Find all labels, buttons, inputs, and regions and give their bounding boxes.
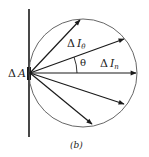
arrow-bottom [30,73,92,124]
figure-caption: (b) [70,140,83,150]
intensity-diagram: ΔA ΔIθ θ ΔIn (b) [0,0,149,157]
label-area: ΔA [8,67,26,80]
label-angle: θ [80,57,86,68]
arrow-lower [30,73,124,104]
label-normal: ΔIn [100,57,119,71]
angle-arc [74,57,77,73]
label-oblique: ΔIθ [67,37,86,51]
